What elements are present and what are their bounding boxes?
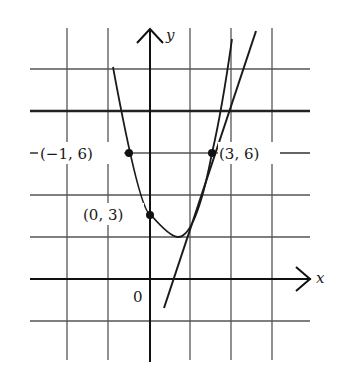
- origin-label: 0: [133, 288, 143, 306]
- point-label: (0, 3): [83, 206, 123, 224]
- point-label: (3, 6): [219, 145, 259, 163]
- grid: [30, 28, 310, 360]
- tangent-line: [164, 31, 256, 308]
- point-label: (−1, 6): [40, 145, 93, 163]
- point-marker: [125, 149, 133, 157]
- y-axis-label: y: [165, 26, 175, 44]
- x-axis-label: x: [316, 269, 325, 287]
- point-marker: [208, 149, 216, 157]
- point-marker: [146, 211, 154, 219]
- graph-canvas: x y 0 (−1, 6) (3, 6) (0, 3): [0, 0, 345, 374]
